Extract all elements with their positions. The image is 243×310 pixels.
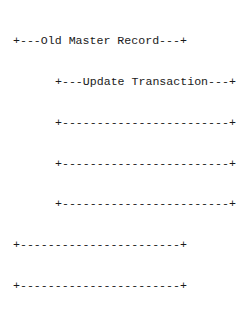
master-record: +-----------------------+: [13, 238, 236, 252]
update-transaction-title: +---Update Transaction---+: [13, 75, 236, 89]
master-record: +-----------------------+: [13, 279, 236, 293]
transaction-record: +------------------------+: [13, 157, 236, 171]
transaction-record: +------------------------+: [13, 197, 236, 211]
transaction-record: +------------------------+: [13, 116, 236, 130]
master-transaction-diagram: +---Old Master Record---+ +---Update Tra…: [13, 7, 236, 310]
old-master-record-title: +---Old Master Record---+: [13, 34, 236, 48]
